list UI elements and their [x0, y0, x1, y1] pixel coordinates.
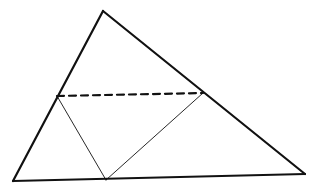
triangle-diagram — [0, 0, 321, 192]
fold-left-line — [57, 96, 106, 180]
dashed-midline-line — [57, 93, 203, 96]
base-line — [13, 174, 305, 181]
fold-right-line — [106, 93, 203, 180]
segments-layer — [13, 11, 305, 181]
side-right-line — [103, 11, 305, 174]
